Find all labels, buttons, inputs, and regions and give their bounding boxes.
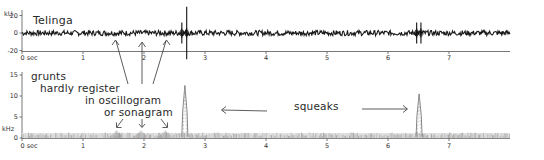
oscillogram-x-tick-label: 4 bbox=[264, 54, 268, 62]
annotations: grunts hardly register in oscillogram or… bbox=[31, 40, 408, 128]
oscillogram-x-tick-label: 1 bbox=[81, 54, 85, 62]
arrow-squeak-left bbox=[222, 107, 268, 114]
sonagram-x-tick-label: 3 bbox=[203, 142, 207, 150]
sonagram-x-tick-label: 1 bbox=[81, 142, 85, 150]
sonagram-noise-band bbox=[22, 130, 510, 138]
sonagram-x-tick-label: 6 bbox=[386, 142, 390, 150]
arrow-grunt-spec-1 bbox=[117, 119, 124, 128]
sonagram-x-tick-label: 5 bbox=[325, 142, 329, 150]
grunts-label-line-3: in oscillogram bbox=[85, 94, 161, 106]
sonagram-y-tick-label: 5 bbox=[14, 113, 18, 121]
sonagram-x-tick-label: 4 bbox=[264, 142, 268, 150]
grunts-label-line-2: hardly register bbox=[40, 82, 120, 94]
sonagram-y-tick-label: 15 bbox=[10, 71, 18, 79]
grunts-label-line-1: grunts bbox=[31, 70, 66, 82]
sonagram-y-tick-label: 0 bbox=[14, 134, 18, 142]
oscillogram-y-tick-label: 0 bbox=[14, 29, 18, 37]
oscillogram-waveform bbox=[22, 30, 510, 35]
oscillogram-y-tick-label: 20 bbox=[10, 12, 18, 20]
oscillogram-x-tick-label: 7 bbox=[447, 54, 451, 62]
recording-title: Telinga bbox=[32, 14, 73, 27]
arrow-grunt-spec-2 bbox=[139, 119, 145, 128]
oscillogram-x-tick-label: 5 bbox=[325, 54, 329, 62]
arrow-squeak-right bbox=[362, 106, 408, 113]
oscillogram-x-ticks: 0 sec1234567 bbox=[21, 52, 452, 63]
oscillogram-y-ticks: 200-20 bbox=[7, 12, 22, 55]
sonagram-x-tick-label: 7 bbox=[447, 142, 451, 150]
oscillogram-y-tick-label: -20 bbox=[7, 47, 18, 55]
sonagram-unit-label: kHz bbox=[2, 125, 15, 133]
oscillogram-x-tick-label: 6 bbox=[386, 54, 390, 62]
oscillogram-x-tick-label: 0 sec bbox=[21, 54, 39, 62]
sonagram-x-ticks: 0 sec1234567 bbox=[21, 139, 452, 151]
arrow-grunt-spec-3 bbox=[161, 119, 168, 128]
grunts-label-line-4: or sonagram bbox=[104, 106, 173, 118]
oscillogram-x-tick-label: 3 bbox=[203, 54, 207, 62]
arrow-grunt-osc-3 bbox=[153, 40, 170, 84]
arrow-grunt-osc-1 bbox=[112, 40, 128, 84]
oscillogram-x-tick-label: 2 bbox=[142, 54, 146, 62]
arrow-grunt-osc-2 bbox=[139, 42, 146, 84]
sonagram-x-tick-label: 0 sec bbox=[21, 142, 39, 150]
figure: kU 200-20 0 sec1234567 Telinga kHz 15105… bbox=[0, 0, 544, 160]
oscillogram-panel: kU 200-20 0 sec1234567 Telinga bbox=[4, 7, 510, 62]
sonagram-x-tick-label: 2 bbox=[142, 142, 146, 150]
sonagram-y-tick-label: 10 bbox=[10, 92, 18, 100]
squeaks-label: squeaks bbox=[294, 100, 339, 112]
